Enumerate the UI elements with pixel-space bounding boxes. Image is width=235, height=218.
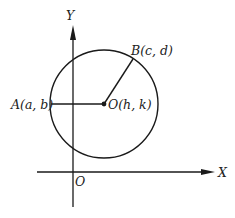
y-axis-label: Y bbox=[66, 8, 76, 23]
center-label: O(h, k) bbox=[108, 97, 152, 112]
center-point bbox=[102, 102, 107, 107]
point-b-label: B(c, d) bbox=[130, 43, 173, 58]
x-axis-arrow-icon bbox=[201, 169, 215, 175]
y-axis-arrow-icon bbox=[70, 25, 76, 40]
x-axis-label: X bbox=[217, 165, 228, 180]
origin-label: O bbox=[75, 174, 85, 189]
point-a-label: A(a, b) bbox=[10, 97, 53, 112]
circle-diagram: Y X O O(h, k) A(a, b) B(c, d) bbox=[0, 0, 235, 218]
